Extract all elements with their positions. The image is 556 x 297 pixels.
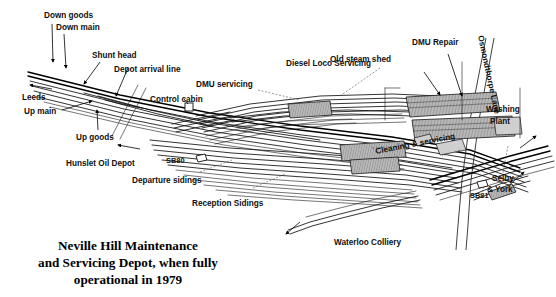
label-up-goods: Up goods [76, 133, 114, 142]
label-washing-plant-line2: Plant [490, 117, 510, 126]
label-up-main: Up main [24, 107, 56, 116]
label-down-goods: Down goods [44, 11, 94, 20]
signal-box-sb80-icon [196, 154, 207, 162]
title-line-3: operational in 1979 [74, 272, 183, 287]
title-line-1: Neville Hill Maintenance [58, 238, 198, 253]
label-depot-arrival-line: Depot arrival line [114, 65, 181, 74]
label-departure-sidings: Departure sidings [132, 176, 202, 185]
label-old-steam-shed: Old steam shed [330, 55, 391, 64]
label-reception-sidings: Reception Sidings [192, 199, 264, 208]
label-down-main: Down main [56, 23, 100, 32]
label-hunslet-oil-depot: Hunslet Oil Depot [66, 159, 135, 168]
label-dmu-servicing: DMU servicing [196, 80, 253, 89]
label-selby-york-line1: Selby [492, 174, 514, 183]
diesel-loco-servicing-building [288, 101, 332, 118]
depot-diagram-page: Down goods Down main Shunt head Depot ar… [0, 0, 556, 297]
label-sb81: SB81 [470, 191, 489, 200]
label-selby-york-line2: & York [487, 185, 513, 194]
label-control-cabin: Control cabin [150, 95, 203, 104]
label-sb80: SB80 [166, 156, 185, 165]
title-line-2: and Servicing Depot, when fully [38, 255, 218, 270]
depot-track-diagram: Down goods Down main Shunt head Depot ar… [0, 0, 556, 297]
label-leeds: Leeds [22, 93, 46, 102]
label-waterloo-colliery: Waterloo Colliery [334, 238, 401, 247]
label-dmu-repair: DMU Repair [412, 38, 459, 47]
label-shunt-head: Shunt head [92, 51, 137, 60]
label-washing-plant-line1: Washing [486, 105, 520, 114]
cleaning-servicing-building-lower [350, 157, 400, 174]
